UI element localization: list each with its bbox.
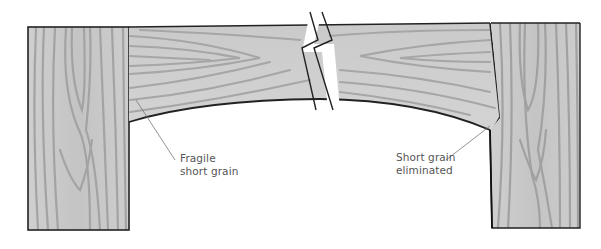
left-post	[28, 27, 129, 230]
label-left-line1: Fragile	[180, 152, 238, 165]
right-post	[490, 23, 580, 228]
label-fragile-short-grain: Fragile short grain	[180, 152, 238, 177]
label-right-line2: eliminated	[396, 164, 456, 177]
label-right-line1: Short grain	[396, 151, 456, 164]
label-short-grain-eliminated: Short grain eliminated	[396, 151, 456, 176]
label-left-line2: short grain	[180, 165, 238, 178]
arch-joinery-diagram	[0, 0, 601, 249]
